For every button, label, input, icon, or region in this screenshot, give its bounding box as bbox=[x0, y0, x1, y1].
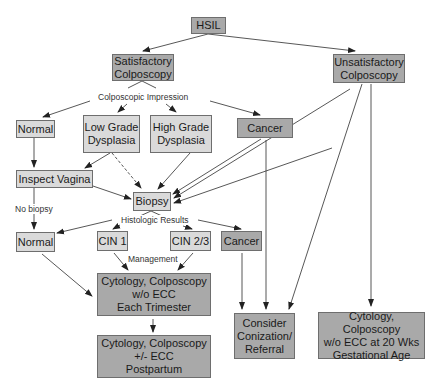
node-cin-1: CIN 1 bbox=[97, 231, 128, 251]
node-unsatisfactory-colposcopy: Unsatisfactory Colposcopy bbox=[333, 54, 405, 83]
node-satisfactory-colposcopy: Satisfactory Colposcopy bbox=[112, 54, 174, 81]
node-inspect-vagina: Inspect Vagina bbox=[16, 170, 93, 188]
node-consider-conization-referral: Consider Conization/ Referral bbox=[234, 313, 295, 359]
node-cin-2-3: CIN 2/3 bbox=[170, 231, 211, 251]
node-hsil: HSIL bbox=[191, 17, 226, 34]
edge-label-colposcopic-impression: Colposcopic Impression bbox=[97, 92, 189, 102]
node-biopsy: Biopsy bbox=[133, 192, 171, 211]
node-cytology-each-trimester: Cytology, Colposcopy w/o ECC Each Trimes… bbox=[97, 273, 211, 316]
node-cancer-histologic: Cancer bbox=[221, 231, 262, 251]
edge-label-histologic-results: Histologic Results bbox=[120, 215, 190, 225]
node-cytology-20-weeks: Cytology, Colposcopy w/o ECC at 20 Wks G… bbox=[318, 312, 425, 359]
node-high-grade-dysplasia: High Grade Dysplasia bbox=[150, 115, 212, 153]
node-low-grade-dysplasia: Low Grade Dysplasia bbox=[83, 115, 140, 153]
node-normal-colposcopic: Normal bbox=[16, 120, 55, 138]
node-cancer-colposcopic: Cancer bbox=[237, 118, 293, 138]
node-cytology-postpartum: Cytology, Colposcopy +/- ECC Postpartum bbox=[97, 335, 211, 378]
node-normal-histologic: Normal bbox=[16, 232, 55, 252]
edge-label-no-biopsy: No biopsy bbox=[14, 204, 54, 214]
edge-label-management: Management bbox=[127, 254, 179, 264]
